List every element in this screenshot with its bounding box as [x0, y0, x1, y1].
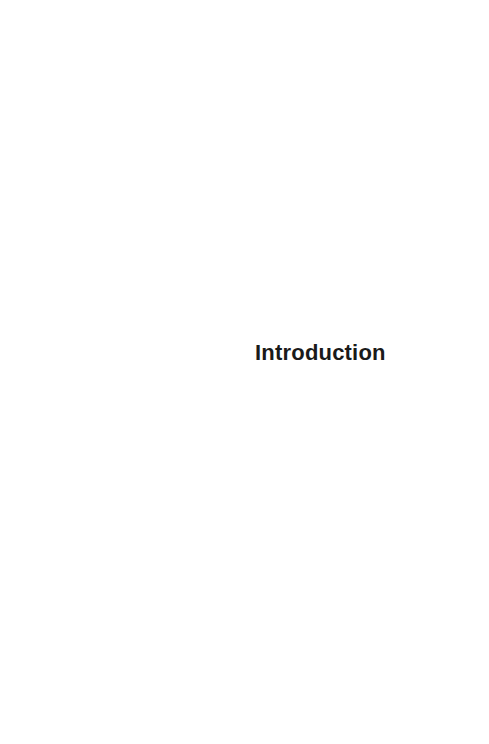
document-page: Introduction: [0, 0, 489, 744]
section-title: Introduction: [255, 339, 386, 367]
